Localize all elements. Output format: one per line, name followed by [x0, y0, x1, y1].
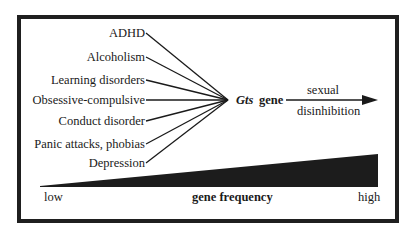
converging-lines — [146, 33, 228, 163]
gene-word: gene — [259, 93, 283, 107]
cause-label-panic-attacks: Panic attacks, phobias — [34, 137, 145, 151]
frequency-high-label: high — [358, 190, 380, 204]
line-conduct-disorder — [146, 100, 228, 121]
gene-name: Gts — [236, 93, 253, 107]
line-panic-attacks — [146, 100, 228, 144]
frequency-title: gene frequency — [192, 190, 273, 204]
cause-label-obsessive-compulsive: Obsessive-compulsive — [33, 93, 145, 107]
arrow-head-icon — [362, 95, 378, 105]
line-alcoholism — [146, 57, 228, 100]
line-depression — [146, 100, 228, 163]
outcome-line-2: disinhibition — [297, 104, 360, 118]
cause-label-adhd: ADHD — [109, 26, 145, 40]
cause-label-learning-disorders: Learning disorders — [51, 73, 145, 87]
cause-label-depression: Depression — [89, 156, 145, 170]
cause-label-alcoholism: Alcoholism — [87, 50, 145, 64]
cause-label-conduct-disorder: Conduct disorder — [59, 114, 145, 128]
outcome-line-1: sexual — [307, 83, 339, 97]
frequency-low-label: low — [44, 190, 63, 204]
